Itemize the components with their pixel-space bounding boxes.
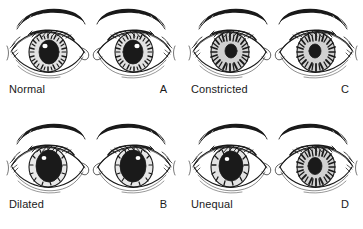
eye-illustration-right [90,0,178,92]
eye-illustration-left [4,0,92,92]
eye-pair [182,0,363,92]
panel-letter-label: D [341,198,349,211]
eye-pair [0,0,181,92]
panel-letter-label: A [160,83,167,96]
eye-illustration-left [186,0,274,92]
panel-name-label: Unequal [191,198,233,211]
panel-name-label: Constricted [191,83,248,96]
panel-normal: Normal A [0,0,181,114]
panel-label-row: Dilated B [0,198,181,224]
panel-label-row: Constricted C [182,83,363,109]
eye-illustration-right [272,0,360,92]
eye-illustration-left [4,115,92,207]
panel-constricted: Constricted C [182,0,363,114]
eye-pair [182,115,363,207]
pupil-assessment-figure: Normal A [0,0,363,229]
eye-pair [0,115,181,207]
panel-unequal: Unequal D [182,115,363,229]
panel-name-label: Normal [9,83,45,96]
panel-label-row: Normal A [0,83,181,109]
eye-illustration-right [272,115,360,207]
eye-illustration-left [186,115,274,207]
panel-label-row: Unequal D [182,198,363,224]
panel-letter-label: B [160,198,167,211]
panel-name-label: Dilated [9,198,44,211]
eye-illustration-right [90,115,178,207]
panel-dilated: Dilated B [0,115,181,229]
panel-letter-label: C [341,83,349,96]
